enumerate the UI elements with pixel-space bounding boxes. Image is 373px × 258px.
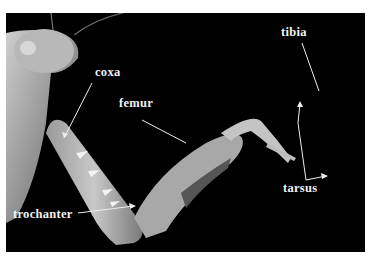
coxa-segment (46, 120, 142, 245)
label-tibia: tibia (281, 25, 307, 40)
femur-segment (134, 134, 243, 238)
label-femur: femur (119, 96, 153, 111)
mantis-leg-photo: coxa femur tibia tarsus trochanter (6, 13, 365, 252)
label-coxa: coxa (95, 65, 121, 80)
label-trochanter: trochanter (13, 207, 73, 222)
label-tarsus: tarsus (283, 181, 317, 196)
